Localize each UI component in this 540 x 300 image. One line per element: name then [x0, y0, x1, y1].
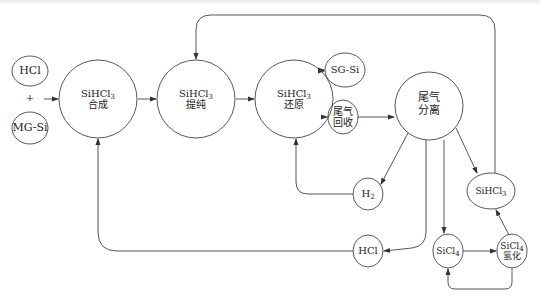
label-sg-si: SG-Si	[325, 62, 365, 78]
label-reduction: SiHCl3 还原	[264, 84, 324, 114]
label-sicl4-hydrogenation: SiCl4 氢化	[497, 237, 527, 265]
label-sicl4: SiCl4	[433, 243, 463, 259]
label-purification: SiHCl3 提纯	[166, 84, 226, 114]
label-synthesis: SiHCl3 合成	[68, 84, 128, 114]
label-plus: +	[22, 91, 38, 105]
label-tail-gas-separation: 尾气分离	[409, 90, 449, 120]
label-mg-si: MG-Si	[8, 120, 52, 136]
label-h2: H2	[354, 186, 382, 202]
label-sihcl3-output: SiHCl3	[469, 183, 513, 199]
label-hcl-input: HCl	[12, 63, 48, 79]
label-hcl-output: HCl	[354, 243, 382, 259]
label-tail-gas-recovery: 尾气回收	[329, 103, 357, 131]
